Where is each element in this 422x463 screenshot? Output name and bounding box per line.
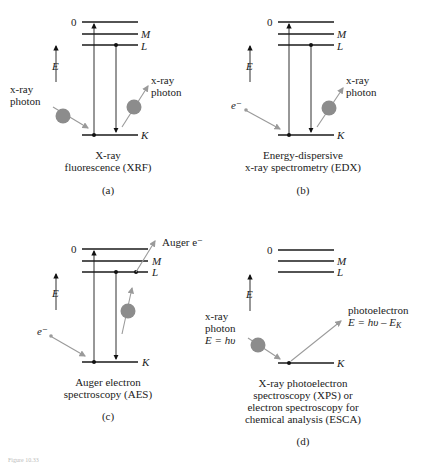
level-k-label: K [141, 356, 150, 368]
panel-letter: (a) [102, 184, 115, 197]
incoming-label: e⁻ [37, 325, 48, 337]
level-k-label: K [336, 357, 345, 369]
panel-letter: (b) [297, 184, 310, 197]
level-0-label: 0 [267, 244, 273, 256]
spectroscopy-diagram: 0 M L K E x-ray photon x-ray photon X-ra… [0, 0, 422, 463]
panel-title-line4: chemical analysis (ESCA) [245, 413, 361, 426]
internal-photon-ball-icon [121, 304, 136, 319]
outgoing-label-line2: photon [151, 86, 182, 98]
incoming-label-line1: x-ray [205, 310, 229, 322]
energy-label: E [51, 287, 59, 299]
incoming-label: e⁻ [231, 99, 242, 111]
panel-title-line2: x-ray spectrometry (EDX) [245, 161, 361, 174]
incoming-photon-ball-icon [251, 338, 266, 353]
energy-label: E [245, 288, 253, 300]
panel-c: 0 M L K E Auger e⁻ e⁻ Auger electron spe… [37, 236, 203, 423]
outgoing-label-line2: photon [346, 86, 377, 98]
outgoing-photon-ball-icon [127, 100, 142, 115]
level-m-label: M [140, 28, 151, 40]
panel-b: 0 M L K E e⁻ x-ray photon Energy-dispers… [231, 16, 377, 197]
photoelectron-arrow-icon [291, 321, 341, 361]
level-l-label: L [336, 266, 343, 278]
level-0-label: 0 [267, 16, 273, 28]
l-electron-dot [309, 43, 313, 47]
outgoing-label-line1: x-ray [346, 74, 370, 86]
level-l-label: L [151, 266, 158, 278]
l-electron-dot [114, 270, 118, 274]
incoming-label-line1: x-ray [10, 83, 34, 95]
level-m-label: M [336, 28, 347, 40]
l-electron-dot [114, 43, 118, 47]
level-l-label: L [336, 40, 343, 52]
panel-title-line1: Energy-dispersive [263, 149, 343, 161]
incoming-photon-ball-icon [56, 109, 71, 124]
panel-letter: (c) [102, 410, 115, 423]
incoming-label-line2: photon [10, 95, 41, 107]
outgoing-label: Auger e⁻ [162, 236, 203, 248]
panel-title-line2: fluorescence (XRF) [64, 161, 151, 174]
energy-label: E [51, 60, 59, 72]
outgoing-label-line1: photoelectron [348, 304, 409, 316]
panel-title-line1: X-ray [95, 149, 121, 161]
panel-title-line1: X-ray photoelectron [259, 377, 348, 389]
figure-caption-partial: Figure 10.33 [8, 457, 39, 463]
incoming-label-line3: E = hυ [204, 334, 235, 346]
k-electron-dot [287, 361, 291, 365]
panel-title-line1: Auger electron [75, 376, 141, 388]
k-electron-dot [92, 133, 96, 137]
level-0-label: 0 [71, 243, 77, 255]
k-electron-dot [287, 133, 291, 137]
panel-a: 0 M L K E x-ray photon x-ray photon X-ra… [10, 16, 182, 197]
outgoing-photon-ball-icon [322, 101, 337, 116]
energy-label: E [245, 60, 253, 72]
outgoing-label-line2: E = hυ – EK [347, 316, 402, 330]
level-k-label: K [336, 129, 345, 141]
level-k-label: K [140, 129, 149, 141]
panel-title-line3: electron spectroscopy for [247, 401, 359, 413]
outgoing-label-line1: x-ray [151, 74, 175, 86]
panel-letter: (d) [297, 435, 310, 448]
incoming-electron-arrow-icon [247, 111, 280, 129]
level-l-label: L [140, 40, 147, 52]
incoming-label-line2: photon [205, 322, 236, 334]
k-electron-dot [92, 360, 96, 364]
panel-d: 0 M L K E x-ray photon E = hυ photoelect… [204, 244, 409, 448]
level-0-label: 0 [71, 16, 77, 28]
panel-title-line2: spectroscopy (AES) [64, 388, 153, 401]
incoming-electron-arrow-icon [52, 337, 85, 356]
